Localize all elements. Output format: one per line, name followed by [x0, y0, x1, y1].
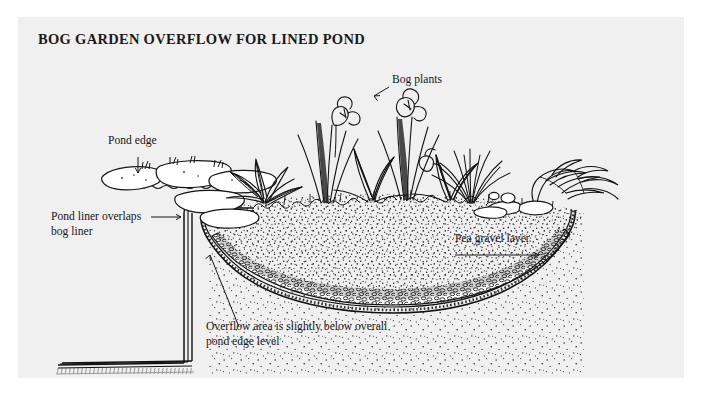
label-pea-gravel: Pea gravel layer [455, 232, 530, 247]
label-overflow-line1: Overflow area is slightly below overall [206, 320, 387, 333]
label-overflow-line2: pond edge level [206, 335, 279, 348]
label-pond-liner: Pond liner overlaps bog liner [51, 210, 141, 239]
plant-right-foliage [532, 160, 618, 203]
plant-broadleaf-center [334, 149, 408, 202]
label-pond-liner-line1: Pond liner overlaps [51, 210, 141, 223]
label-pond-liner-line2: bog liner [51, 225, 93, 238]
label-bog-plants: Bog plants [392, 73, 442, 88]
plant-iris-center-left [298, 97, 360, 203]
pond-floor-hatching [56, 368, 194, 374]
label-pond-edge: Pond edge [108, 134, 157, 149]
plant-iris-center-right [378, 89, 442, 200]
pond-floor-liner [58, 361, 192, 368]
page-canvas: BOG GARDEN OVERFLOW FOR LINED POND [18, 17, 684, 378]
label-overflow: Overflow area is slightly below overall … [206, 320, 387, 349]
leader-bog-plants [374, 87, 389, 96]
